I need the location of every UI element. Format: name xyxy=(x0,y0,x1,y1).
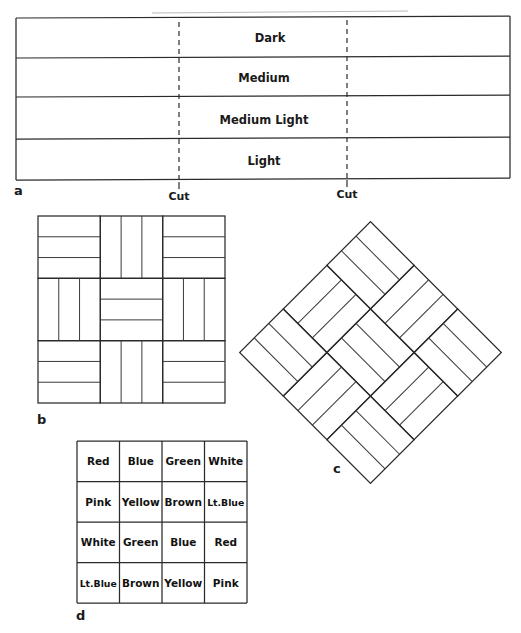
parquet-block xyxy=(163,216,225,278)
panel-d-cell: Pink xyxy=(85,496,112,508)
panel-d-cell: Blue xyxy=(128,455,154,467)
panel-a-strip-label-light: Light xyxy=(247,154,281,168)
parquet-strip-divider xyxy=(356,411,400,455)
parquet-block xyxy=(327,222,414,309)
parquet-block xyxy=(38,216,100,278)
panel-b: b xyxy=(37,216,225,427)
parquet-strip-divider xyxy=(269,323,313,367)
parquet-block xyxy=(371,265,458,352)
parquet-strip-divider xyxy=(312,294,356,338)
panel-d-cell: Brown xyxy=(164,496,202,508)
panel-a-cut-label-1: Cut xyxy=(168,190,189,203)
parquet-block xyxy=(100,216,162,278)
panel-d-cell: Brown xyxy=(122,577,160,589)
parquet-strip-divider xyxy=(341,425,385,469)
panel-d-cell: Red xyxy=(87,455,110,467)
scan-top-crop-artifact xyxy=(152,11,408,13)
parquet-strip-divider xyxy=(400,294,444,338)
panel-d-cell: Blue xyxy=(170,536,196,548)
panel-d-cell: White xyxy=(81,536,116,548)
parquet-strip-divider xyxy=(298,280,342,324)
parquet-strip-divider xyxy=(341,338,385,382)
panel-a: Dark Medium Medium Light Light Cut Cut a xyxy=(14,16,510,203)
parquet-strip-divider xyxy=(254,338,298,382)
parquet-strip-divider xyxy=(385,280,429,324)
parquet-block xyxy=(240,309,327,396)
panel-a-strip-label-medium: Medium xyxy=(238,71,290,85)
parquet-block xyxy=(327,309,414,396)
parquet-block xyxy=(414,309,501,396)
parquet-strip-divider xyxy=(341,251,385,295)
parquet-block xyxy=(163,341,225,403)
panel-d-cell: Yellow xyxy=(163,577,202,589)
parquet-block xyxy=(38,278,100,340)
parquet-strip-divider xyxy=(443,323,487,367)
parquet-strip-divider xyxy=(400,382,444,426)
parquet-strip-divider xyxy=(312,382,356,426)
panel-c-weave xyxy=(240,222,502,484)
parquet-figure-svg: Dark Medium Medium Light Light Cut Cut a… xyxy=(0,0,521,633)
panel-a-strip-label-dark: Dark xyxy=(255,31,286,45)
panel-a-label: a xyxy=(14,183,23,198)
panel-c-label: c xyxy=(333,461,341,476)
parquet-block xyxy=(100,278,162,340)
parquet-strip-divider xyxy=(298,367,342,411)
panel-b-label: b xyxy=(37,412,46,427)
figure-root: Dark Medium Medium Light Light Cut Cut a… xyxy=(0,0,521,633)
panel-c: c xyxy=(240,222,502,484)
parquet-block xyxy=(38,341,100,403)
panel-a-strip-label-medium-light: Medium Light xyxy=(220,113,309,127)
parquet-strip-divider xyxy=(356,323,400,367)
parquet-strip-divider xyxy=(356,236,400,280)
panel-d-label: d xyxy=(76,608,85,623)
parquet-block xyxy=(283,265,370,352)
parquet-strip-divider xyxy=(385,367,429,411)
panel-d-cell: Pink xyxy=(213,577,240,589)
panel-d: RedBlueGreenWhitePinkYellowBrownLt.BlueW… xyxy=(76,441,247,623)
panel-d-cell: Lt.Blue xyxy=(80,578,117,589)
panel-d-cell: Green xyxy=(123,536,159,548)
panel-d-cell: Yellow xyxy=(121,496,160,508)
panel-a-cut-label-2: Cut xyxy=(336,188,357,201)
panel-b-weave xyxy=(38,216,225,403)
panel-d-cell: White xyxy=(208,455,243,467)
panel-d-cell: Green xyxy=(165,455,201,467)
parquet-strip-divider xyxy=(429,338,473,382)
parquet-block xyxy=(100,341,162,403)
parquet-block xyxy=(163,278,225,340)
panel-d-cell: Lt.Blue xyxy=(207,497,244,508)
parquet-block xyxy=(370,353,457,440)
parquet-block xyxy=(283,353,370,440)
panel-d-cell: Red xyxy=(214,536,237,548)
